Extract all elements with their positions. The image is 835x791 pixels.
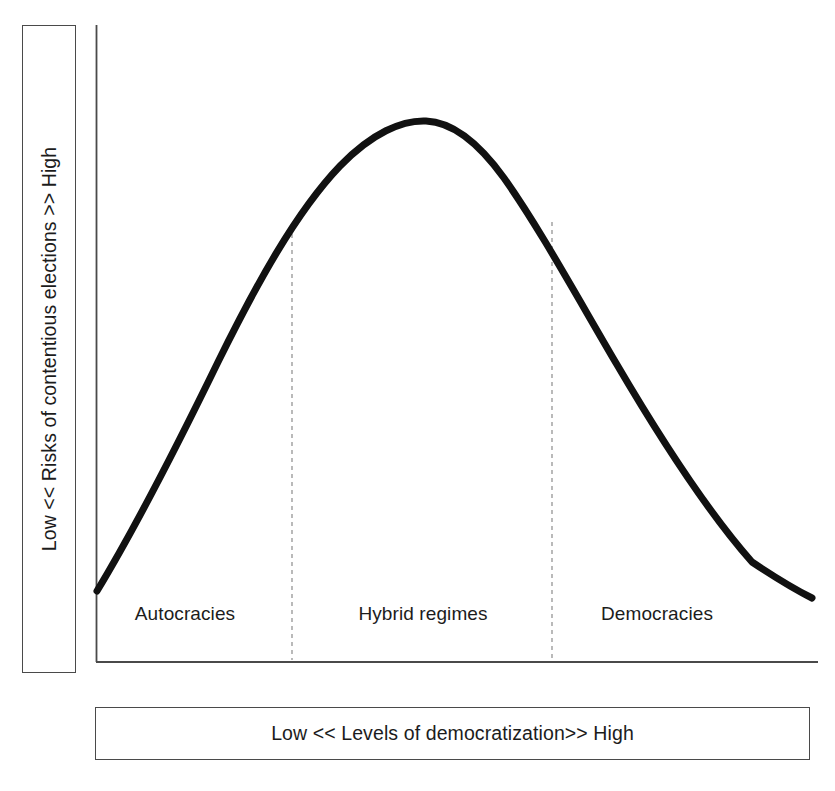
x-axis-label: Low << Levels of democratization>> High bbox=[271, 722, 634, 745]
risk-curve bbox=[97, 121, 812, 598]
plot-svg bbox=[0, 0, 835, 700]
plot-area: Autocracies Hybrid regimes Democracies bbox=[0, 0, 835, 700]
region-label-hybrid-regimes: Hybrid regimes bbox=[358, 603, 487, 625]
x-axis-label-box: Low << Levels of democratization>> High bbox=[95, 707, 810, 760]
figure-root: Low << Risks of contentious elections >>… bbox=[0, 0, 835, 791]
region-label-autocracies: Autocracies bbox=[135, 603, 235, 625]
region-label-democracies: Democracies bbox=[601, 603, 713, 625]
